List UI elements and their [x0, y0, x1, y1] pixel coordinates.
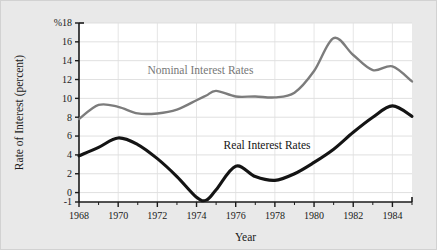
x-tick-label: 1970: [108, 210, 128, 221]
y-tick-label: 12: [62, 74, 72, 85]
interest-rates-line-chart: -10246810121416%18 196819701972197419761…: [1, 1, 437, 250]
y-tick-label: 4: [67, 149, 72, 160]
y-tick-label: 0: [67, 187, 72, 198]
chart-figure: -10246810121416%18 196819701972197419761…: [0, 0, 437, 250]
y-axis-tick-labels: -10246810121416%18: [54, 17, 72, 207]
x-tick-label: 1984: [382, 210, 402, 221]
x-tick-label: 1976: [226, 210, 246, 221]
y-tick-label: 8: [67, 112, 72, 123]
y-tick-label: 6: [67, 130, 72, 141]
x-axis-tick-labels: 196819701972197419761978198019821984: [69, 210, 402, 221]
series-label-real: Real Interest Rates: [224, 139, 311, 151]
y-tick-label: 14: [62, 55, 72, 66]
x-tick-label: 1980: [304, 210, 324, 221]
x-tick-label: 1968: [69, 210, 89, 221]
y-tick-label: 2: [67, 168, 72, 179]
x-tick-label: 1974: [187, 210, 207, 221]
y-tick-label: -1: [64, 196, 72, 207]
series-label-nominal: Nominal Interest Rates: [147, 64, 254, 76]
x-axis-title: Year: [235, 231, 256, 243]
x-tick-label: 1972: [147, 210, 167, 221]
x-tick-label: 1978: [265, 210, 285, 221]
plot-background: [79, 23, 412, 202]
x-tick-label: 1982: [343, 210, 363, 221]
y-tick-label: 10: [62, 93, 72, 104]
y-tick-label: %18: [54, 17, 72, 28]
y-tick-label: 16: [62, 36, 72, 47]
y-axis-title: Rate of Interest (percent): [13, 55, 26, 170]
